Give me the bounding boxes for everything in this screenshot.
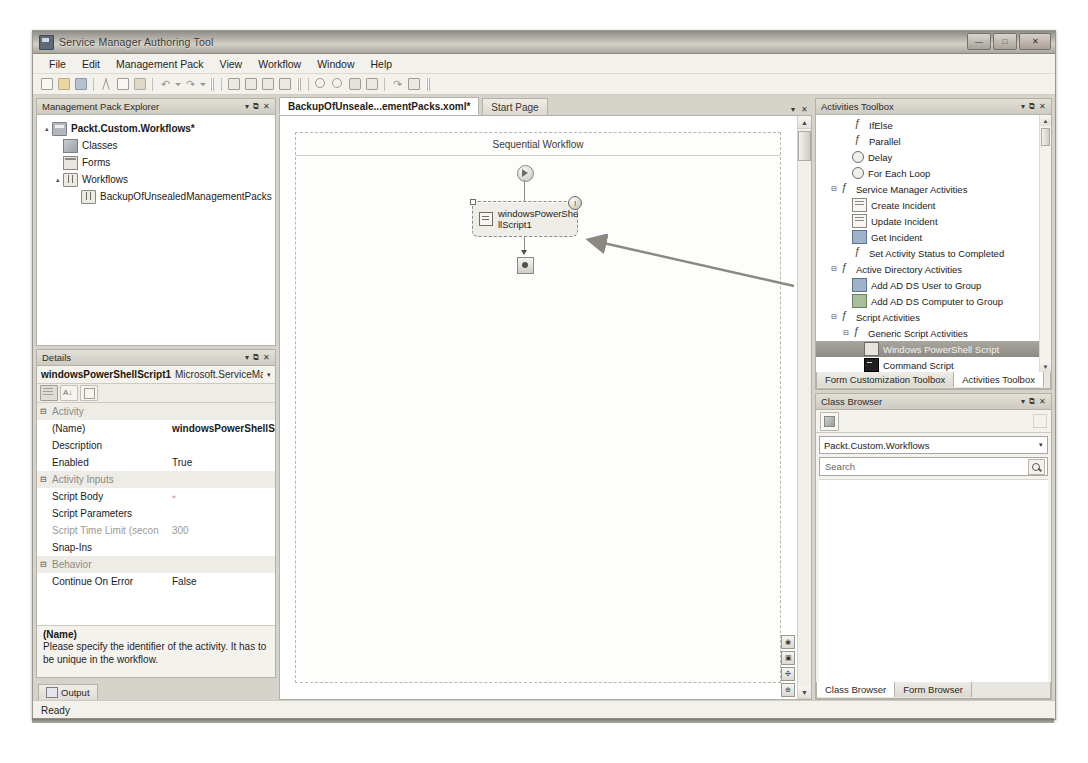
align-center-icon[interactable] (243, 76, 259, 92)
toolbox-item-ifelse[interactable]: IfElse (816, 117, 1051, 133)
pan-tool-icon[interactable]: ✣ (781, 667, 795, 681)
toolbox-group-generic-script-activities[interactable]: ⊟Generic Script Activities (816, 325, 1051, 341)
pin-icon[interactable]: ⧉ (253, 354, 259, 362)
maximize-button[interactable]: □ (993, 33, 1017, 50)
property-row-description[interactable]: Description (37, 437, 275, 454)
details-object-selector[interactable]: windowsPowerShellScript1 Microsoft.Servi… (37, 366, 275, 384)
menu-file[interactable]: File (41, 56, 74, 72)
toolbox-item-add-ad-user-to-group[interactable]: Add AD DS User to Group (816, 277, 1051, 293)
align-left-icon[interactable] (226, 76, 242, 92)
tree-item-classes[interactable]: Classes (37, 137, 275, 154)
tree-item-workflows[interactable]: ▴ Workflows (37, 171, 275, 188)
property-row-script-time-limit[interactable]: Script Time Limit (secon 300 (37, 522, 275, 539)
tree-item-forms[interactable]: Forms (37, 154, 275, 171)
copy-icon[interactable] (115, 76, 131, 92)
alphabetical-sort-button[interactable] (60, 385, 78, 401)
toolbox-item-create-incident[interactable]: Create Incident (816, 197, 1051, 213)
menu-edit[interactable]: Edit (74, 56, 108, 72)
property-row-continue-on-error[interactable]: Continue On Error False (37, 573, 275, 590)
tab-start-page[interactable]: Start Page (482, 98, 547, 115)
scrollbar-thumb[interactable] (1041, 128, 1050, 146)
menu-workflow[interactable]: Workflow (250, 56, 309, 72)
property-pages-button[interactable] (80, 385, 98, 401)
toolbox-item-windows-powershell-script[interactable]: Windows PowerShell Script (816, 341, 1051, 357)
expand-all-icon[interactable]: ↷ (389, 76, 405, 92)
paste-icon[interactable] (132, 76, 148, 92)
scrollbar-thumb[interactable] (798, 131, 811, 161)
toolbox-group-service-manager-activities[interactable]: ⊟Service Manager Activities (816, 181, 1051, 197)
close-icon[interactable]: ✕ (801, 105, 808, 114)
tab-workflow-document[interactable]: BackupOfUnseale...ementPacks.xoml* (279, 97, 479, 115)
chevron-down-icon[interactable]: ▾ (245, 103, 249, 111)
expander-icon[interactable]: ⊟ (828, 185, 839, 193)
categorized-sort-button[interactable] (40, 385, 58, 401)
expander-icon[interactable]: ⊟ (37, 407, 50, 416)
canvas-vertical-scrollbar[interactable]: ▲ ▼ (797, 116, 811, 699)
expander-icon[interactable]: ⊟ (37, 560, 50, 569)
tab-output[interactable]: Output (38, 684, 98, 700)
close-button[interactable]: ✕ (1019, 33, 1051, 50)
close-icon[interactable]: ✕ (263, 103, 270, 111)
undo-dropdown-icon[interactable] (174, 76, 181, 92)
toolbox-item-delay[interactable]: Delay (816, 149, 1051, 165)
chevron-down-icon[interactable]: ▾ (1021, 398, 1025, 406)
minimize-button[interactable]: — (967, 33, 991, 50)
property-value[interactable]: ◦ (170, 491, 275, 502)
tab-class-browser[interactable]: Class Browser (817, 682, 895, 697)
undo-icon[interactable]: ↶ (157, 76, 173, 92)
open-icon[interactable] (56, 76, 72, 92)
toolbox-group-active-directory-activities[interactable]: ⊟Active Directory Activities (816, 261, 1051, 277)
chevron-down-icon[interactable]: ▾ (1021, 103, 1025, 111)
collapse-all-icon[interactable] (406, 76, 422, 92)
zoom-in-icon[interactable] (313, 76, 329, 92)
align-right-icon[interactable] (260, 76, 276, 92)
pin-icon[interactable]: ⧉ (253, 103, 259, 111)
expander-icon[interactable]: ⊟ (840, 329, 851, 337)
expander-icon[interactable]: ▴ (41, 125, 52, 133)
property-value[interactable]: 300 (170, 525, 275, 536)
pin-icon[interactable]: ⧉ (1029, 103, 1035, 111)
activities-list[interactable]: IfElse Parallel Delay For Each Loop ⊟Ser… (816, 115, 1051, 372)
property-value[interactable]: True (170, 457, 275, 468)
menu-view[interactable]: View (212, 56, 251, 72)
chevron-down-icon[interactable]: ▾ (791, 105, 795, 114)
navigate-tool-icon[interactable]: ⊕ (781, 683, 795, 697)
distribute-icon[interactable] (277, 76, 293, 92)
chevron-down-icon[interactable]: ▾ (245, 354, 249, 362)
property-row-snap-ins[interactable]: Snap-Ins (37, 539, 275, 556)
toolbox-item-update-incident[interactable]: Update Incident (816, 213, 1051, 229)
new-icon[interactable] (39, 76, 55, 92)
close-icon[interactable]: ✕ (1039, 398, 1046, 406)
property-value[interactable]: False (170, 576, 275, 587)
selection-handle[interactable] (470, 199, 476, 205)
tree-item-backup-workflow[interactable]: BackupOfUnsealedManagementPacks (37, 188, 275, 205)
class-browser-secondary-icon[interactable] (1033, 414, 1047, 428)
workflow-end-node[interactable] (517, 257, 534, 274)
expander-icon[interactable]: ⊟ (37, 475, 50, 484)
class-browser-scope-combo[interactable]: Packt.Custom.Workflows ▾ (819, 436, 1048, 454)
zoom-out-icon[interactable] (330, 76, 346, 92)
fit-to-screen-tool-icon[interactable]: ▣ (781, 651, 795, 665)
scroll-down-icon[interactable]: ▼ (1040, 361, 1051, 372)
warning-badge-icon[interactable]: ! (568, 196, 582, 210)
toolbar-overflow-grip[interactable] (297, 78, 301, 91)
toolbox-item-add-ad-computer-to-group[interactable]: Add AD DS Computer to Group (816, 293, 1051, 309)
close-icon[interactable]: ✕ (1039, 103, 1046, 111)
menu-window[interactable]: Window (309, 56, 362, 72)
class-browser-results[interactable] (819, 479, 1048, 682)
toolbox-item-get-incident[interactable]: Get Incident (816, 229, 1051, 245)
toolbox-item-command-script[interactable]: Command Script (816, 357, 1051, 372)
scroll-up-icon[interactable]: ▲ (1040, 115, 1051, 126)
menu-help[interactable]: Help (363, 56, 401, 72)
workflow-canvas[interactable]: Sequential Workflow windowsPowerShellScr… (280, 116, 797, 699)
property-row-script-parameters[interactable]: Script Parameters (37, 505, 275, 522)
tab-activities-toolbox[interactable]: Activities Toolbox (954, 372, 1044, 387)
property-row-name[interactable]: (Name) windowsPowerShellScript1 (37, 420, 275, 437)
toolbox-group-script-activities[interactable]: ⊟Script Activities (816, 309, 1051, 325)
expander-icon[interactable]: ▴ (52, 176, 63, 184)
sequential-workflow-surface[interactable]: Sequential Workflow windowsPowerShellScr… (295, 132, 781, 683)
toolbox-item-parallel[interactable]: Parallel (816, 133, 1051, 149)
toolbox-item-set-activity-status[interactable]: Set Activity Status to Completed (816, 245, 1051, 261)
tab-form-browser[interactable]: Form Browser (895, 682, 972, 697)
zoom-tool-icon[interactable]: ◉ (781, 635, 795, 649)
